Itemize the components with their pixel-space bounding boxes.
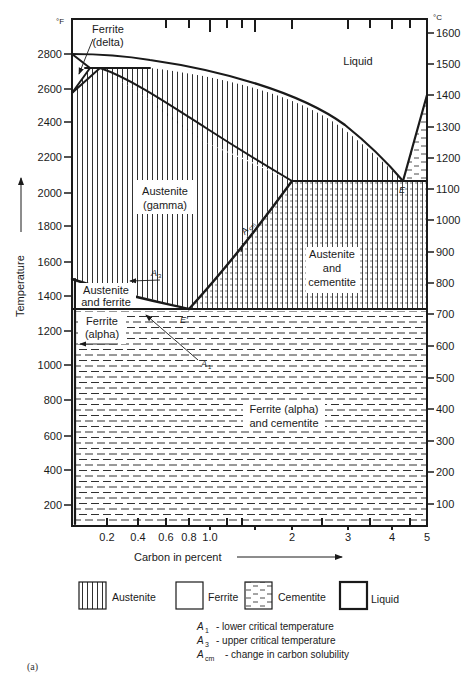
svg-text:A: A (200, 359, 207, 369)
svg-text:- upper critical temperature: - upper critical temperature (216, 635, 336, 646)
label-ferrite-alpha-2: (alpha) (85, 328, 119, 340)
figure-caption: (a) (27, 661, 38, 673)
svg-text:- change in carbon solubility: - change in carbon solubility (225, 649, 349, 660)
label-liquid: Liquid (343, 55, 372, 67)
svg-text:2: 2 (289, 531, 295, 543)
svg-text:0.2: 0.2 (99, 531, 114, 543)
label-austenite-cementite-2: and (323, 262, 341, 274)
legend-note-a1: A 1 - lower critical temperature (196, 621, 334, 634)
legend-note-a3: A 3 - upper critical temperature (196, 635, 336, 648)
svg-text:Austenite: Austenite (112, 591, 156, 603)
svg-text:- lower critical temperature: - lower critical temperature (216, 621, 334, 632)
svg-text:1500: 1500 (436, 58, 460, 70)
svg-text:1.0: 1.0 (202, 531, 217, 543)
svg-text:2800: 2800 (38, 48, 62, 60)
svg-text:0.4: 0.4 (130, 531, 145, 543)
svg-text:300: 300 (436, 435, 454, 447)
svg-text:1400: 1400 (38, 290, 62, 302)
svg-text:1600: 1600 (436, 27, 460, 39)
svg-text:600: 600 (436, 340, 454, 352)
svg-text:Liquid: Liquid (371, 593, 399, 605)
svg-text:700: 700 (436, 308, 454, 320)
svg-text:1000: 1000 (436, 214, 460, 226)
eutectoid-point-label: E' (180, 315, 188, 325)
carbon-tick-labels: 0.2 0.4 0.6 0.8 1.0 2 3 4 5 (99, 531, 430, 543)
carbon-axis-label: Carbon in percent (134, 551, 221, 563)
label-ferrite-alpha-1: Ferrite (86, 315, 118, 327)
svg-text:1100: 1100 (436, 183, 460, 195)
left-ticks (64, 54, 72, 505)
svg-text:1: 1 (205, 627, 209, 634)
svg-text:1400: 1400 (436, 89, 460, 101)
svg-text:100: 100 (436, 498, 454, 510)
svg-text:A: A (150, 268, 157, 278)
label-austenite-1: Austenite (142, 185, 188, 197)
svg-text:1200: 1200 (436, 152, 460, 164)
svg-text:600: 600 (44, 430, 62, 442)
svg-text:A: A (196, 635, 204, 646)
svg-text:1600: 1600 (38, 256, 62, 268)
svg-text:800: 800 (44, 394, 62, 406)
svg-text:500: 500 (436, 372, 454, 384)
svg-text:1000: 1000 (38, 359, 62, 371)
eutectic-point-label: E (399, 185, 406, 195)
svg-text:2600: 2600 (38, 83, 62, 95)
label-ferrite-cementite-2: and cementite (249, 417, 318, 429)
svg-text:3: 3 (345, 531, 351, 543)
top-ticks (166, 19, 410, 32)
legend-note-acm: A cm - change in carbon solubility (196, 649, 349, 662)
fahrenheit-unit: °F (56, 17, 64, 26)
svg-text:3: 3 (205, 641, 209, 648)
svg-text:A: A (196, 649, 204, 660)
label-austenite-cementite-3: cementite (308, 276, 356, 288)
svg-text:5: 5 (424, 531, 430, 543)
svg-text:400: 400 (44, 464, 62, 476)
delta-ferrite-solvus (72, 54, 90, 68)
celsius-unit: °C (433, 13, 442, 22)
iron-carbon-phase-diagram: °F °C 2800 2600 2400 2200 2000 1800 1600… (0, 0, 470, 684)
label-austenite-cementite-1: Austenite (309, 248, 355, 260)
legend-item-austenite: Austenite (79, 582, 156, 609)
legend: Austenite Ferrite Cementite Liquid A 1 -… (79, 582, 399, 662)
label-ferrite-cementite-1: Ferrite (alpha) (249, 403, 318, 415)
svg-text:200: 200 (436, 466, 454, 478)
svg-text:1800: 1800 (38, 220, 62, 232)
svg-text:2400: 2400 (38, 116, 62, 128)
svg-text:Cementite: Cementite (278, 591, 326, 603)
legend-item-ferrite: Ferrite (176, 582, 238, 609)
svg-text:0.8: 0.8 (181, 531, 196, 543)
svg-text:900: 900 (436, 246, 454, 258)
label-austenite-ferrite-1: Austenite (83, 284, 129, 296)
label-austenite-ferrite-2: and ferrite (81, 296, 131, 308)
svg-text:2200: 2200 (38, 151, 62, 163)
svg-text:0.6: 0.6 (158, 531, 173, 543)
svg-text:cm: cm (205, 655, 215, 662)
legend-item-cementite: Cementite (245, 582, 326, 609)
svg-text:1300: 1300 (436, 121, 460, 133)
fahrenheit-tick-labels: 2800 2600 2400 2200 2000 1800 1600 1400 … (38, 48, 62, 511)
label-ferrite-delta-1: Ferrite (92, 23, 124, 35)
temperature-axis-label: Temperature (14, 255, 26, 317)
label-ferrite-delta-2: (delta) (92, 36, 123, 48)
right-ticks (427, 33, 434, 504)
legend-item-liquid: Liquid (340, 582, 399, 609)
svg-text:A: A (196, 621, 204, 632)
svg-text:200: 200 (44, 499, 62, 511)
celsius-tick-labels: 1600 1500 1400 1300 1200 1100 1000 900 8… (436, 27, 460, 510)
svg-text:400: 400 (436, 403, 454, 415)
svg-text:4: 4 (389, 531, 395, 543)
svg-text:800: 800 (436, 277, 454, 289)
svg-text:2000: 2000 (38, 187, 62, 199)
label-austenite-2: (gamma) (143, 199, 187, 211)
svg-text:1200: 1200 (38, 325, 62, 337)
svg-text:Ferrite: Ferrite (208, 591, 238, 603)
